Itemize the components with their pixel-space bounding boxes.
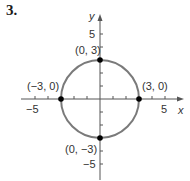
y-axis-label: y xyxy=(88,10,96,22)
label-0-neg3: (0, −3) xyxy=(65,143,97,155)
y-tick-5: 5 xyxy=(89,28,95,40)
y-tick-neg5: −5 xyxy=(83,158,96,170)
coordinate-graph: x y −5 5 5 −5 (0, 3) (−3, 0) (3, 0) (0, … xyxy=(0,0,190,181)
point-0-3 xyxy=(97,57,103,63)
point-neg3-0 xyxy=(58,96,64,102)
point-0-neg3 xyxy=(97,135,103,141)
x-tick-5: 5 xyxy=(161,103,167,115)
x-tick-neg5: −5 xyxy=(26,103,39,115)
x-axis-label: x xyxy=(177,104,184,116)
label-neg3-0: (−3, 0) xyxy=(27,80,59,92)
label-0-3: (0, 3) xyxy=(75,44,101,56)
x-axis xyxy=(21,96,184,102)
point-3-0 xyxy=(136,96,142,102)
y-axis xyxy=(98,14,104,180)
label-3-0: (3, 0) xyxy=(142,80,168,92)
